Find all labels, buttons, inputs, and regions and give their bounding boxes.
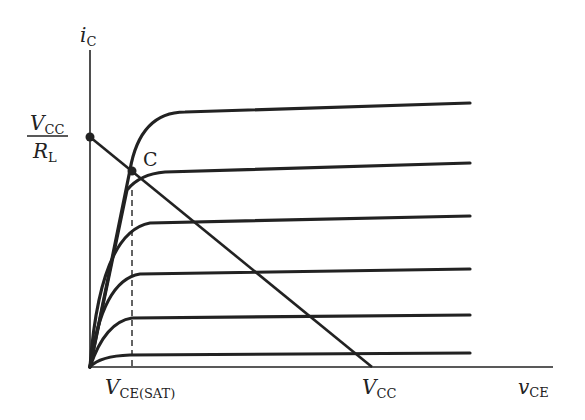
y-axis-label: iC [80,23,96,49]
svg-text:RL: RL [32,139,57,165]
curve-ib-2 [90,315,470,367]
point-c-label: C [143,148,158,170]
y-intercept-label: VCC RL [27,111,68,165]
vce-sat-label: VCE(SAT) [105,375,175,401]
svg-text:VCC: VCC [30,111,64,137]
characteristic-curves [90,103,470,367]
vcc-label: VCC [362,375,396,401]
curve-ib-5 [90,163,470,367]
curve-ib-6 [90,103,470,367]
x-axis-label: vCE [518,375,549,400]
y-intercept-dot [86,133,95,142]
bjt-characteristics-diagram: iC VCC RL C VCE(SAT) VCC vCE [0,0,585,420]
curve-ib-1 [90,353,470,367]
point-c-dot [128,167,137,176]
